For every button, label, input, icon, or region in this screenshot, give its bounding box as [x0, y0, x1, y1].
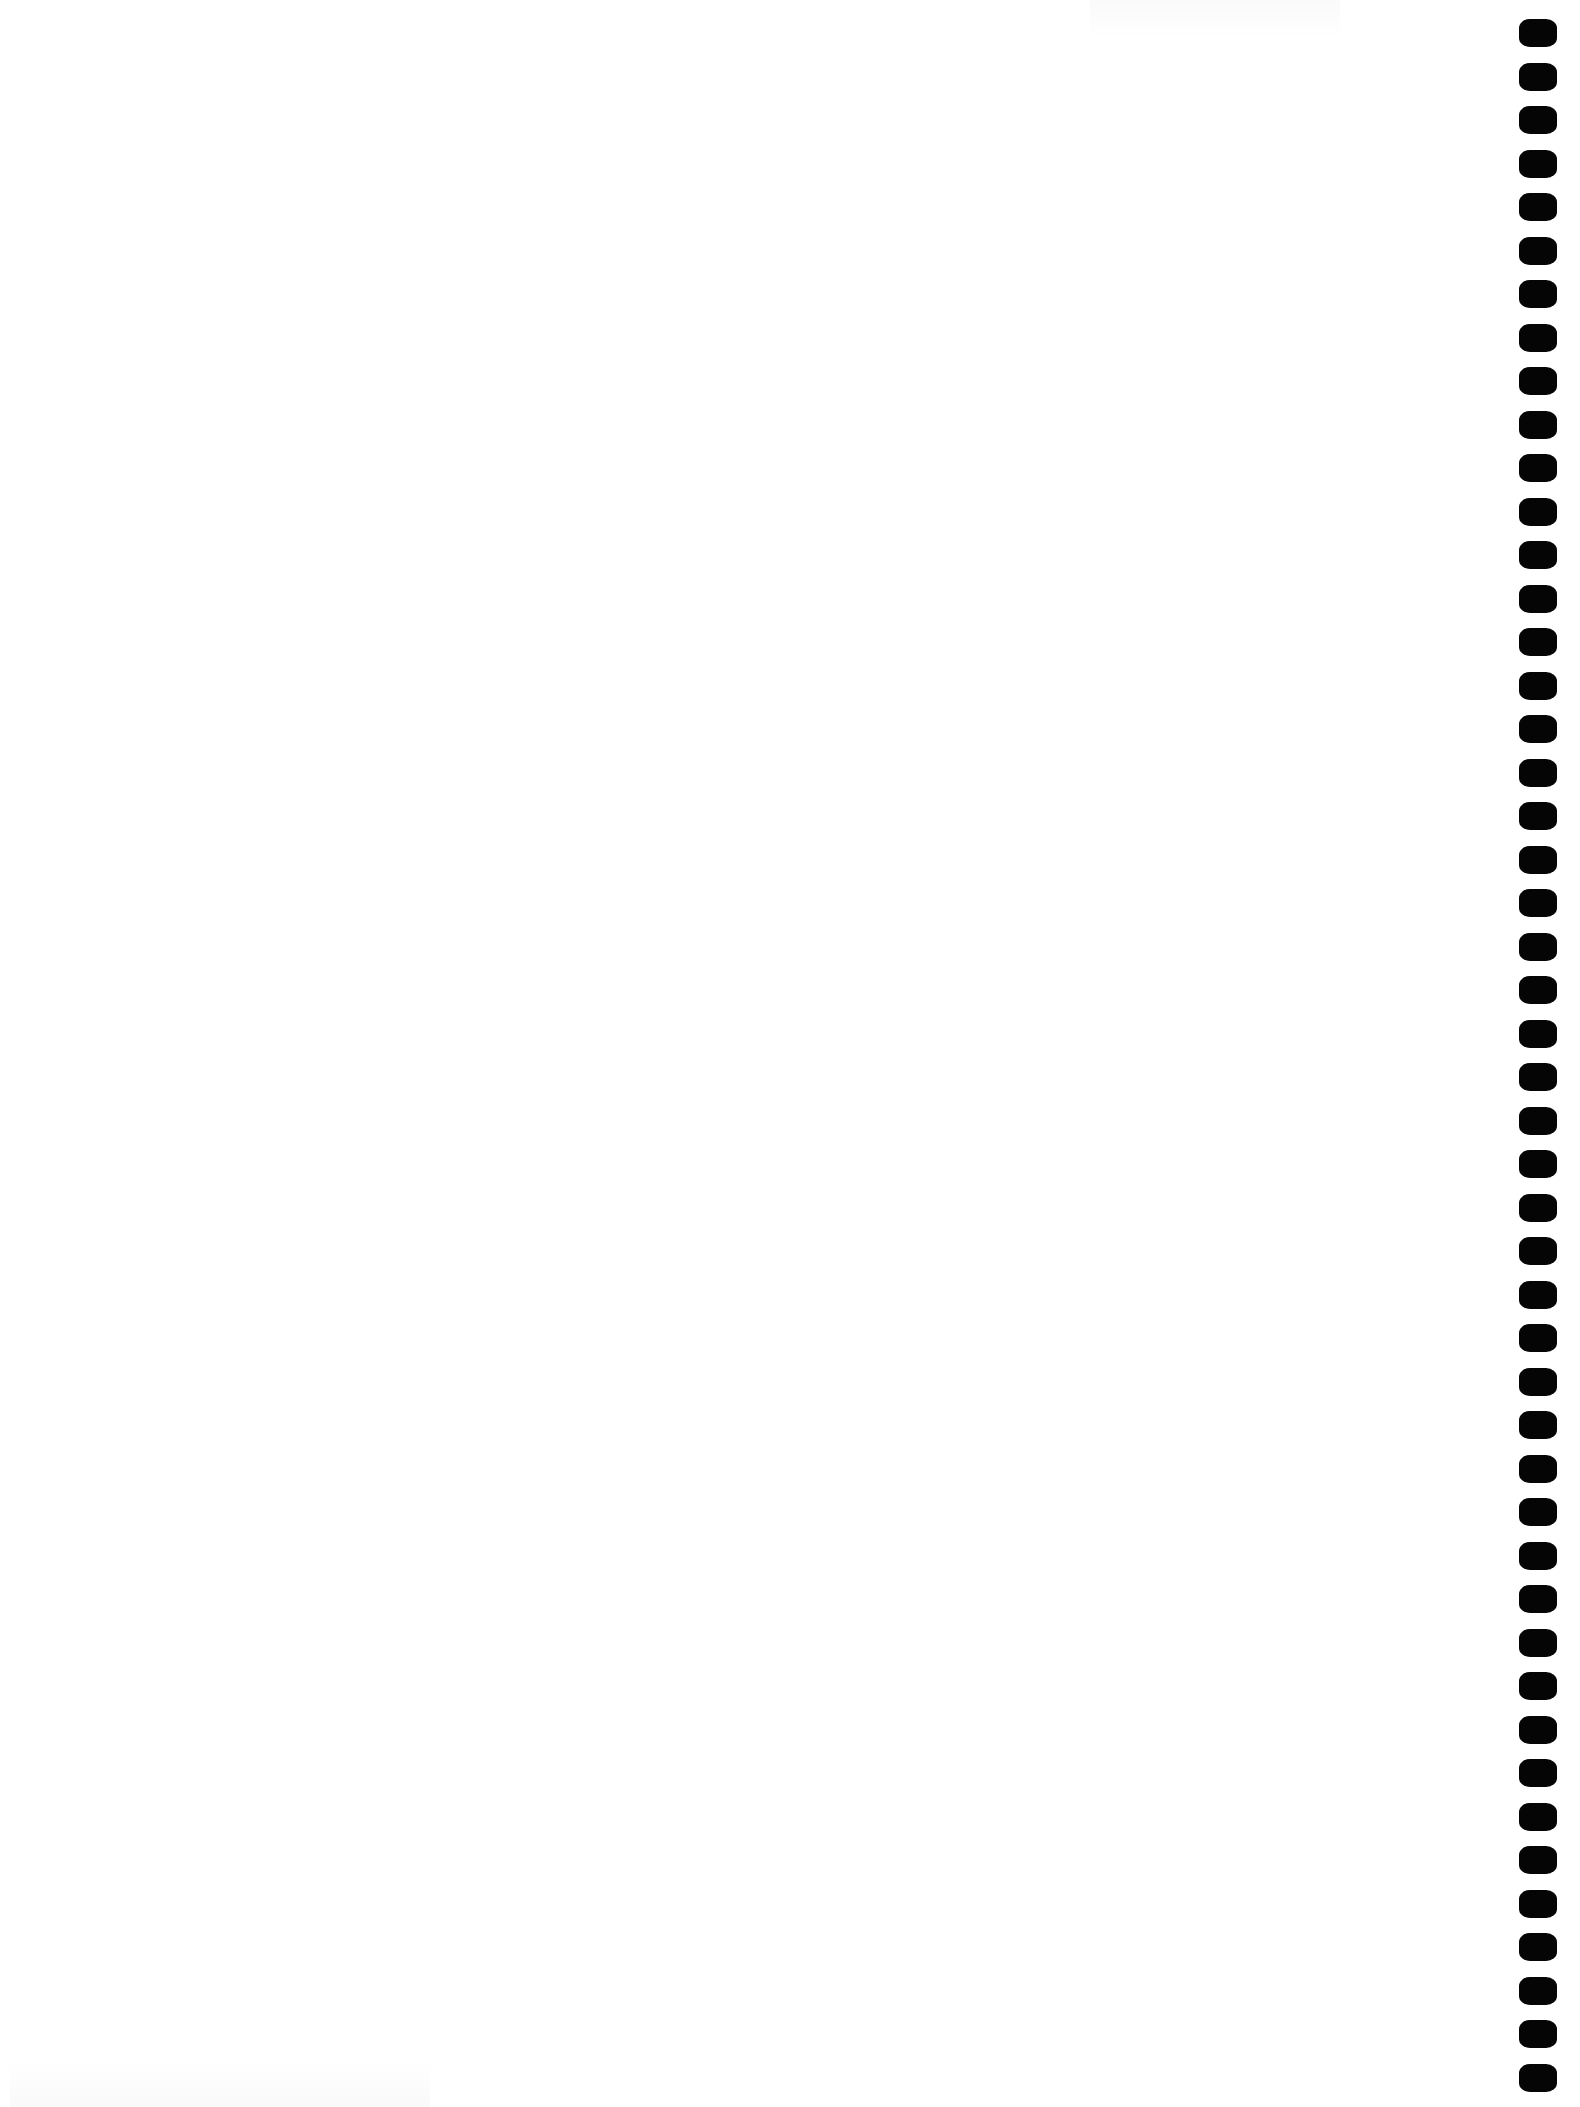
binding-mark	[1519, 1759, 1557, 1787]
binding-mark	[1519, 1542, 1557, 1570]
binding-mark	[1519, 324, 1557, 352]
binding-mark	[1519, 1716, 1557, 1744]
binding-mark	[1519, 672, 1557, 700]
binding-mark	[1519, 1585, 1557, 1613]
binding-mark	[1519, 1455, 1557, 1483]
binding-mark	[1519, 411, 1557, 439]
binding-mark	[1519, 1281, 1557, 1309]
binding-mark	[1519, 63, 1557, 91]
binding-mark	[1519, 1020, 1557, 1048]
binding-mark	[1519, 1107, 1557, 1135]
binding-mark	[1519, 889, 1557, 917]
binding-mark	[1519, 541, 1557, 569]
binding-mark	[1519, 1629, 1557, 1657]
scanned-page	[0, 0, 1580, 2107]
binding-mark	[1519, 367, 1557, 395]
binding-mark	[1519, 759, 1557, 787]
binding-mark	[1519, 976, 1557, 1004]
binding-mark	[1519, 454, 1557, 482]
binding-mark	[1519, 585, 1557, 613]
binding-mark	[1519, 933, 1557, 961]
binding-mark	[1519, 193, 1557, 221]
binding-mark	[1519, 2064, 1557, 2092]
binding-mark	[1519, 1672, 1557, 1700]
binding-mark	[1519, 802, 1557, 830]
binding-mark	[1519, 1411, 1557, 1439]
binding-mark	[1519, 1324, 1557, 1352]
binding-mark	[1519, 1237, 1557, 1265]
binding-mark	[1519, 1194, 1557, 1222]
binding-mark	[1519, 150, 1557, 178]
binding-mark	[1519, 1977, 1557, 2005]
binding-mark	[1519, 846, 1557, 874]
binding-mark	[1519, 1063, 1557, 1091]
binding-mark	[1519, 1498, 1557, 1526]
binding-mark	[1519, 1368, 1557, 1396]
binding-mark	[1519, 1933, 1557, 1961]
paper-surface	[0, 0, 1580, 2107]
binding-perforation-column	[1519, 0, 1557, 2107]
binding-mark	[1519, 1803, 1557, 1831]
binding-mark	[1519, 2020, 1557, 2048]
binding-mark	[1519, 19, 1557, 47]
binding-mark	[1519, 280, 1557, 308]
binding-mark	[1519, 715, 1557, 743]
binding-mark	[1519, 628, 1557, 656]
binding-mark	[1519, 498, 1557, 526]
binding-mark	[1519, 237, 1557, 265]
binding-mark	[1519, 1846, 1557, 1874]
binding-mark	[1519, 106, 1557, 134]
binding-mark	[1519, 1890, 1557, 1918]
binding-mark	[1519, 1150, 1557, 1178]
